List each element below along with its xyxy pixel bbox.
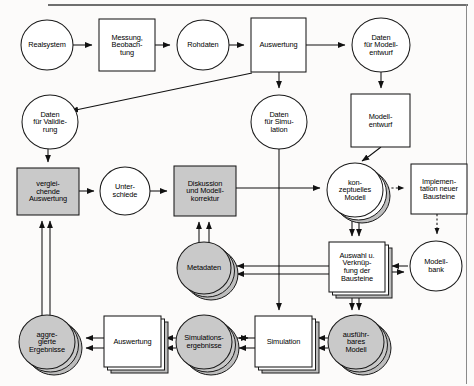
node-auswahl (329, 242, 392, 298)
node-simulation (255, 316, 319, 373)
node-realsystem (21, 20, 73, 70)
node-diskussion (174, 166, 236, 216)
node-modellentwurf (351, 94, 410, 147)
node-simerg (176, 315, 239, 375)
diagram-canvas: RealsystemMessung,Beobach-tungRohdatenAu… (0, 0, 474, 386)
edge-modellentwurf-konzeptuell (362, 147, 381, 161)
node-datensim (251, 95, 307, 149)
node-rohdaten (177, 20, 229, 70)
node-messung (99, 19, 155, 71)
diagram-graphics (0, 0, 474, 386)
node-auswertung2 (104, 316, 168, 373)
edge-auswertung1-datenvalid (71, 73, 252, 111)
node-konzeptuell (327, 163, 390, 223)
node-modellbank (410, 241, 462, 291)
node-metadaten (177, 242, 238, 300)
node-vergleichende (17, 168, 79, 215)
node-ausfuehrbar (328, 315, 391, 375)
node-auswertung1 (251, 18, 306, 72)
node-implementation (411, 164, 467, 214)
node-datenvalid (22, 95, 78, 149)
node-datenmodell (352, 18, 410, 72)
node-aggregierte (19, 315, 82, 375)
node-unterschiede (100, 167, 150, 215)
